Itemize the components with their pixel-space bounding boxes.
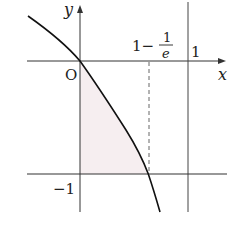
x-mark-numerator: 1 [163, 30, 171, 45]
origin-label: O [65, 66, 77, 84]
x-axis-label: x [218, 65, 227, 84]
y-minus-one-label: −1 [53, 180, 75, 198]
graph-canvas: y x O 1 −1 1− 1 e [0, 0, 247, 231]
shaded-region [80, 61, 148, 174]
y-axis-label: y [63, 0, 74, 19]
y-axis-arrow-icon [77, 5, 83, 13]
x-one-label: 1 [191, 43, 201, 61]
x-mark-prefix: 1− [132, 37, 154, 55]
x-mark-denominator: e [162, 46, 170, 61]
x-axis-arrow-icon [218, 58, 226, 64]
